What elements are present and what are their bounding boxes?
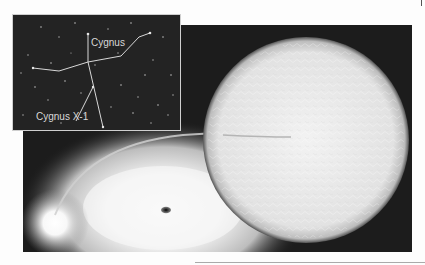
page-rule <box>195 262 425 263</box>
black-hole <box>161 207 171 213</box>
page-edge-mark <box>421 0 422 6</box>
cygnus-x1-label: Cygnus X-1 <box>36 112 88 122</box>
constellation-inset: Cygnus Cygnus X-1 <box>12 14 181 131</box>
cygnus-label: Cygnus <box>91 38 125 48</box>
